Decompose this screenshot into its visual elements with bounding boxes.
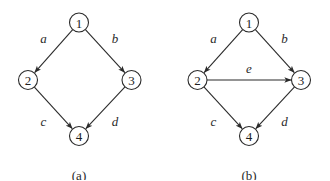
- edge-label-e: e: [246, 61, 252, 76]
- caption-a: (a): [72, 168, 86, 181]
- node-2: 2: [188, 71, 207, 90]
- edge-label-b: b: [112, 31, 119, 46]
- node-label: 3: [298, 73, 305, 88]
- node-3: 3: [122, 71, 141, 90]
- node-label: 4: [76, 129, 83, 144]
- edge-label-d: d: [112, 114, 119, 129]
- edge-label-d: d: [281, 114, 288, 129]
- diagram-b: abecd1234(b): [188, 13, 311, 180]
- node-label: 1: [246, 16, 253, 31]
- edge-3-4: [86, 87, 125, 129]
- node-1: 1: [240, 13, 259, 32]
- diagram-a: abcd1234(a): [19, 13, 142, 180]
- edge-label-c: c: [211, 114, 217, 129]
- edge-label-a: a: [40, 31, 47, 46]
- caption-b: (b): [241, 168, 256, 181]
- node-label: 1: [76, 16, 83, 31]
- edge-1-3: [255, 30, 294, 73]
- node-label: 3: [128, 73, 135, 88]
- edge-label-b: b: [281, 31, 288, 46]
- edge-1-3: [85, 30, 124, 73]
- node-label: 2: [194, 73, 201, 88]
- node-4: 4: [70, 127, 89, 146]
- edge-label-a: a: [210, 31, 217, 46]
- edge-label-c: c: [41, 114, 47, 129]
- edge-3-4: [256, 87, 295, 129]
- graph-diagrams: abcd1234(a) abecd1234(b): [0, 0, 330, 180]
- node-label: 2: [25, 73, 32, 88]
- node-4: 4: [240, 127, 259, 146]
- node-1: 1: [70, 13, 89, 32]
- node-label: 4: [246, 129, 253, 144]
- node-3: 3: [292, 71, 311, 90]
- node-2: 2: [19, 71, 38, 90]
